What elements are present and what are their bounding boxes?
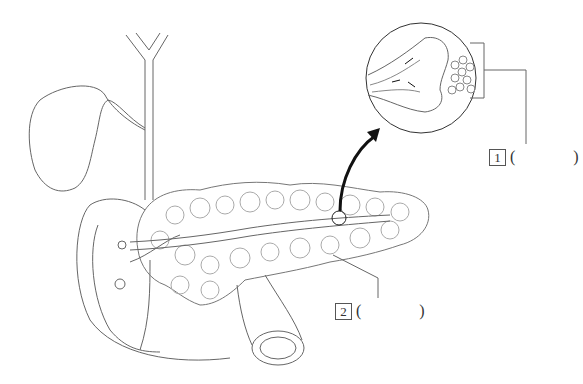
label-2-leader xyxy=(333,255,378,298)
major-papilla xyxy=(115,279,125,289)
label-1-number: 1 xyxy=(489,149,506,166)
pancreas-diagram xyxy=(0,0,583,384)
label-2: 2 ( ) xyxy=(335,302,425,320)
bile-duct xyxy=(126,33,168,200)
label-1-close-paren: ) xyxy=(573,148,578,166)
gallbladder xyxy=(29,86,145,191)
label-1-leader xyxy=(470,43,526,144)
duodenum xyxy=(77,199,230,360)
intestine-tube xyxy=(237,275,304,365)
label-1: 1 ( ) xyxy=(489,148,579,166)
label-2-number: 2 xyxy=(335,303,352,320)
label-2-close-paren: ) xyxy=(419,302,424,320)
label-2-open-paren: ( xyxy=(356,302,361,320)
pancreas xyxy=(137,182,429,305)
label-1-open-paren: ( xyxy=(510,148,515,166)
magnified-view xyxy=(366,23,476,133)
minor-papilla xyxy=(118,241,126,249)
